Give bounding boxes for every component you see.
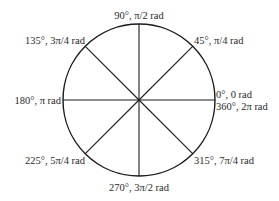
- angle-label-0: 0°, 0 rad360°, 2π rad: [216, 89, 269, 112]
- radius-lines: [63, 24, 215, 176]
- angle-label-line: 225°, 5π/4 rad: [25, 155, 86, 166]
- radius-line-225: [85, 100, 139, 154]
- angle-label-line: 315°, 7π/4 rad: [194, 155, 255, 166]
- angle-labels: 0°, 0 rad360°, 2π rad45°, π/4 rad90°, π/…: [14, 10, 268, 193]
- radius-line-45: [139, 46, 193, 100]
- angle-label-225: 225°, 5π/4 rad: [25, 155, 86, 166]
- angle-label-270: 270°, 3π/2 rad: [109, 182, 170, 193]
- angle-label-90: 90°, π/2 rad: [114, 10, 164, 21]
- angle-label-line: 0°, 0 rad: [216, 89, 253, 100]
- unit-circle-diagram: 0°, 0 rad360°, 2π rad45°, π/4 rad90°, π/…: [0, 0, 279, 201]
- angle-label-line: 270°, 3π/2 rad: [109, 182, 170, 193]
- angle-label-45: 45°, π/4 rad: [194, 35, 244, 46]
- angle-label-line: 180°, π rad: [14, 95, 61, 106]
- angle-label-135: 135°, 3π/4 rad: [25, 35, 86, 46]
- radius-line-135: [85, 46, 139, 100]
- angle-label-line: 90°, π/2 rad: [114, 10, 164, 21]
- angle-label-315: 315°, 7π/4 rad: [194, 155, 255, 166]
- angle-label-180: 180°, π rad: [14, 95, 61, 106]
- angle-label-line: 45°, π/4 rad: [194, 35, 244, 46]
- angle-label-line: 135°, 3π/4 rad: [25, 35, 86, 46]
- unit-circle-svg: 0°, 0 rad360°, 2π rad45°, π/4 rad90°, π/…: [0, 0, 279, 201]
- angle-label-line: 360°, 2π rad: [216, 101, 269, 112]
- radius-line-315: [139, 100, 193, 154]
